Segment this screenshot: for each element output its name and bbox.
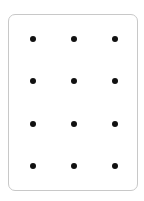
grid-dot <box>30 36 36 42</box>
grid-dot <box>71 78 77 84</box>
grid-dot <box>30 78 36 84</box>
grid-dot <box>71 36 77 42</box>
grid-dot <box>112 163 118 169</box>
grid-dot <box>112 36 118 42</box>
grid-dot <box>112 78 118 84</box>
grid-dot <box>71 163 77 169</box>
grid-dot <box>71 121 77 127</box>
grid-dot <box>30 163 36 169</box>
grid-dot <box>112 121 118 127</box>
grid-dot <box>30 121 36 127</box>
